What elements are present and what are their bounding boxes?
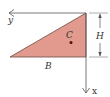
triangle-diagram: y x C B H: [0, 0, 110, 97]
centroid-label: C: [66, 30, 73, 40]
base-label: B: [44, 61, 52, 71]
x-axis-label: x: [92, 86, 97, 96]
height-label: H: [95, 31, 104, 41]
triangle-shape: [10, 13, 86, 57]
height-arrow-down-icon: [98, 52, 101, 57]
y-axis-label: y: [7, 15, 14, 25]
height-arrow-up-icon: [98, 14, 101, 19]
centroid-dot: [70, 41, 73, 44]
y-axis: [9, 10, 86, 17]
